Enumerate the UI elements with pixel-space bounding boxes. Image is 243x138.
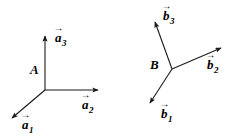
point-label-a: A — [30, 63, 39, 76]
vector-label-b1-base: →b — [161, 107, 168, 120]
vector-arrow-accent-icon: → — [205, 50, 215, 60]
point-label-b: B — [150, 58, 159, 71]
vector-diagram-figure: A →a1 →a2 →a3 B →b1 →b2 →b3 — [0, 0, 243, 138]
vector-label-a2: →a2 — [82, 98, 93, 115]
vector-arrow-accent-icon: → — [20, 110, 30, 120]
vector-subscript-b2: 2 — [214, 65, 219, 75]
vector-label-a1-base: →a — [22, 118, 29, 131]
vector-label-b3: →b3 — [163, 9, 174, 26]
vector-subscript-a3: 3 — [62, 38, 67, 48]
vector-subscript-b3: 3 — [170, 16, 175, 26]
vector-arrow-accent-icon: → — [53, 23, 63, 33]
vector-subscript-a2: 2 — [89, 105, 94, 115]
vector-arrow-accent-icon: → — [80, 90, 90, 100]
vector-arrow-accent-icon: → — [159, 99, 169, 109]
vector-label-b2: →b2 — [207, 58, 218, 75]
vector-subscript-a1: 1 — [29, 125, 34, 135]
vector-label-a1: →a1 — [22, 118, 33, 135]
vector-label-a2-base: →a — [82, 98, 89, 111]
vector-label-b3-base: →b — [163, 9, 170, 22]
vector-label-b1: →b1 — [161, 107, 172, 124]
vector-subscript-b1: 1 — [168, 114, 173, 124]
vector-label-a3-base: →a — [55, 31, 62, 44]
vector-label-b2-base: →b — [207, 58, 214, 71]
vector-arrow-accent-icon: → — [161, 1, 171, 11]
vector-label-a3: →a3 — [55, 31, 66, 48]
